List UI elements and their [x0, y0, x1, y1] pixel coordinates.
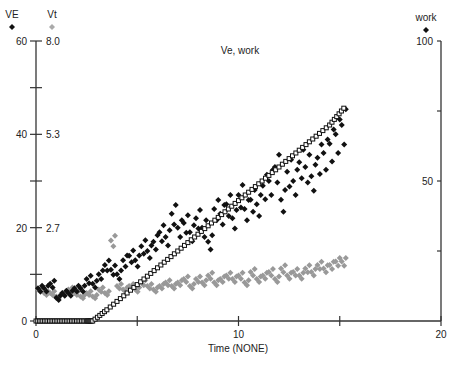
data-point-marker-icon — [138, 243, 144, 249]
data-point-marker-icon — [173, 202, 179, 208]
data-point-marker-icon — [274, 179, 280, 185]
data-point-marker-icon — [112, 263, 118, 269]
data-point-marker-icon — [108, 238, 114, 244]
work-tick-label: 100 — [416, 36, 433, 47]
data-point-marker-icon — [312, 162, 318, 168]
vt-tick-label: 5.3 — [46, 129, 60, 140]
data-point-marker-icon — [110, 243, 116, 249]
data-point-marker-icon — [177, 234, 183, 240]
data-point-marker-icon — [191, 222, 197, 228]
data-point-marker-icon — [335, 150, 341, 156]
data-point-marker-icon — [299, 175, 305, 181]
data-point-marker-icon — [193, 215, 199, 221]
data-point-marker-icon — [169, 211, 175, 217]
data-point-marker-icon — [227, 192, 233, 198]
data-point-marker-icon — [88, 273, 94, 279]
data-point-marker-icon — [112, 233, 118, 239]
work-legend-marker-icon — [423, 27, 429, 33]
x-axis: 01020 Time (NONE) — [33, 316, 447, 354]
data-point-marker-icon — [197, 207, 203, 213]
data-point-marker-icon — [343, 255, 349, 261]
data-point-marker-icon — [203, 217, 209, 223]
data-point-marker-icon — [153, 247, 159, 253]
data-point-marker-icon — [323, 167, 329, 173]
right-axis: work 50100 — [414, 12, 441, 321]
vt-tick-label: 8.0 — [46, 36, 60, 47]
data-point-marker-icon — [339, 122, 345, 128]
data-point-marker-icon — [208, 247, 214, 253]
chart: Ve, work VE Vt 02040602.75.38.0 work 501… — [0, 0, 461, 369]
data-point-marker-icon — [250, 209, 256, 215]
data-point-marker-icon — [135, 263, 141, 269]
data-point-marker-icon — [106, 258, 112, 264]
ve-tick-label: 0 — [21, 316, 27, 327]
data-point-marker-icon — [284, 169, 290, 175]
data-point-marker-icon — [215, 197, 221, 203]
data-point-marker-icon — [163, 234, 169, 240]
data-point-marker-icon — [278, 197, 284, 203]
data-point-marker-icon — [314, 155, 320, 161]
data-point-marker-icon — [258, 192, 264, 198]
data-point-marker-icon — [161, 222, 167, 228]
data-point-marker-icon — [120, 257, 126, 263]
x-tick-label: 0 — [33, 329, 39, 340]
vt-axis-label: Vt — [47, 9, 57, 20]
data-point-marker-icon — [341, 142, 347, 148]
work-tick-label: 50 — [422, 176, 434, 187]
data-point-marker-icon — [147, 255, 153, 261]
data-point-marker-icon — [321, 150, 327, 156]
data-point-marker-icon — [306, 152, 312, 158]
data-point-marker-icon — [319, 142, 325, 148]
data-point-marker-icon — [287, 184, 293, 190]
data-point-marker-icon — [240, 182, 246, 188]
data-point-marker-icon — [209, 232, 215, 238]
data-point-marker-icon — [293, 192, 299, 198]
data-point-marker-icon — [185, 212, 191, 218]
data-point-marker-icon — [123, 263, 129, 269]
data-point-marker-icon — [276, 152, 282, 158]
data-point-marker-icon — [317, 171, 323, 177]
data-point-marker-icon — [280, 209, 286, 215]
data-point-marker-icon — [201, 234, 207, 240]
vt-legend-marker-icon — [49, 24, 55, 30]
ve-tick-label: 60 — [16, 36, 28, 47]
data-point-marker-icon — [319, 259, 325, 265]
work-axis-label: work — [414, 12, 437, 23]
data-point-marker-icon — [256, 213, 262, 219]
data-point-marker-icon — [305, 179, 311, 185]
x-tick-label: 20 — [435, 329, 447, 340]
data-point-marker-icon — [254, 201, 260, 207]
data-point-marker-icon — [167, 227, 173, 233]
data-point-marker-icon — [308, 173, 314, 179]
data-point-marker-icon — [102, 262, 108, 268]
ve-legend-marker-icon — [9, 24, 15, 30]
data-point-marker-icon — [302, 164, 308, 170]
data-point-marker-icon — [296, 159, 302, 165]
x-axis-label: Time (NONE) — [208, 343, 268, 354]
data-point-marker-icon — [329, 158, 335, 164]
data-point-marker-icon — [290, 178, 296, 184]
data-point-marker-icon — [244, 217, 250, 223]
data-point-marker-icon — [187, 229, 193, 235]
ve-tick-label: 20 — [16, 223, 28, 234]
ve-tick-label: 40 — [16, 129, 28, 140]
data-point-marker-icon — [211, 206, 217, 212]
data-point-marker-icon — [294, 167, 300, 173]
data-point-marker-icon — [165, 242, 171, 248]
data-point-marker-icon — [282, 187, 288, 193]
data-point-marker-icon — [311, 188, 317, 194]
data-point-marker-icon — [262, 196, 268, 202]
chart-title: Ve, work — [221, 45, 260, 56]
data-point-marker-icon — [232, 226, 238, 232]
data-point-marker-icon — [142, 237, 148, 243]
x-tick-label: 10 — [233, 329, 245, 340]
ve-axis-label: VE — [5, 9, 19, 20]
vt-tick-label: 2.7 — [46, 223, 60, 234]
data-point-marker-icon — [268, 192, 274, 198]
data-point-marker-icon — [205, 239, 211, 245]
data-point-marker-icon — [118, 268, 124, 274]
left-axis: VE Vt 02040602.75.38.0 — [5, 9, 60, 327]
data-point-marker-icon — [159, 238, 165, 244]
data-point-marker-icon — [220, 221, 226, 227]
data-point-marker-icon — [130, 247, 136, 253]
